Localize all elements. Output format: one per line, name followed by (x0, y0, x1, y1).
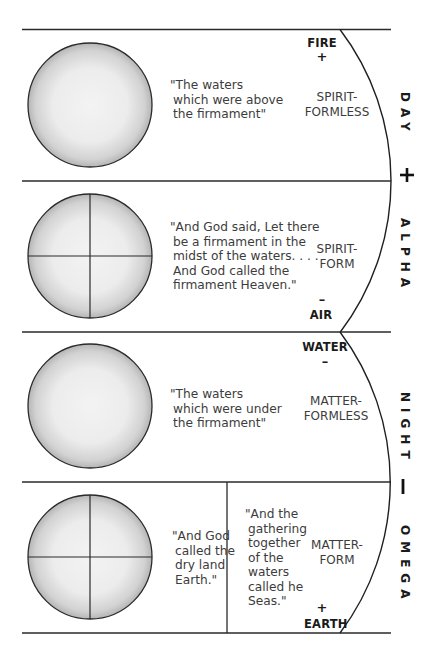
category-omega: MATTER- FORM (302, 538, 372, 567)
element-fire: FIRE (302, 36, 342, 50)
category-line: FORMLESS (302, 105, 372, 120)
plus-sign-fire: + (312, 49, 332, 64)
sphere-alpha (28, 194, 152, 318)
quote-line: "The waters (170, 387, 282, 402)
quote-day: "The waters which were above the firmame… (170, 78, 283, 122)
plus-sign-large (400, 168, 414, 182)
side-label-alpha: ALPHA (398, 218, 412, 293)
category-line: MATTER- (300, 394, 372, 409)
quote-line: "And God said, Let there (170, 220, 319, 235)
category-night: MATTER- FORMLESS (300, 394, 372, 423)
category-line: FORM (302, 553, 372, 568)
sphere-omega (28, 495, 152, 619)
quote-line: the firmament" (170, 416, 282, 431)
side-label-omega: OMEGA (398, 525, 412, 604)
element-air: AIR (306, 308, 336, 322)
quote-line: Earth." (172, 573, 235, 588)
quote-line: firmament Heaven." (170, 278, 319, 293)
category-alpha: SPIRIT- FORM (302, 242, 372, 271)
quote-omega-earth: "And God called the dry land Earth." (172, 529, 235, 587)
quote-line: of the (245, 551, 307, 566)
quote-line: gathering (245, 522, 307, 537)
element-water: WATER (299, 340, 351, 354)
category-line: MATTER- (302, 538, 372, 553)
quote-line: "And the (245, 507, 307, 522)
quote-line: which were under (170, 402, 282, 417)
category-line: SPIRIT- (302, 90, 372, 105)
quote-line: which were above (170, 93, 283, 108)
quote-line: And God called the (170, 264, 319, 279)
quote-line: dry land (172, 558, 235, 573)
quote-omega-seas: "And the gathering together of the water… (245, 507, 307, 609)
minus-sign-water: – (315, 354, 335, 369)
quote-line: be a firmament in the (170, 235, 319, 250)
sphere-night (28, 344, 152, 468)
quote-line: waters (245, 565, 307, 580)
quote-night: "The waters which were under the firmame… (170, 387, 282, 431)
side-label-night: NIGHT (398, 392, 412, 465)
quote-line: the firmament" (170, 107, 283, 122)
quote-line: midst of the waters. . . . (170, 249, 319, 264)
element-earth: EARTH (304, 617, 346, 631)
quote-line: called the (172, 544, 235, 559)
quote-line: Seas." (245, 594, 307, 609)
plus-sign-earth: + (312, 600, 332, 615)
quote-alpha: "And God said, Let there be a firmament … (170, 220, 319, 293)
category-line: SPIRIT- (302, 242, 372, 257)
category-line: FORMLESS (300, 409, 372, 424)
quote-line: "The waters (170, 78, 283, 93)
creation-diagram: "The waters which were above the firmame… (0, 0, 434, 662)
quote-line: "And God (172, 529, 235, 544)
sphere-day (28, 43, 152, 167)
minus-sign-air: – (312, 292, 332, 307)
side-label-day: DAY (398, 92, 412, 137)
category-day: SPIRIT- FORMLESS (302, 90, 372, 119)
quote-line: together (245, 536, 307, 551)
quote-line: called he (245, 580, 307, 595)
category-line: FORM (302, 257, 372, 272)
